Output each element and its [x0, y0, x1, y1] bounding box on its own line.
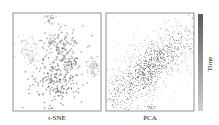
- pca-point: [155, 89, 156, 90]
- pca-point: [112, 104, 113, 105]
- tsne-point: [72, 51, 73, 52]
- pca-point: [153, 67, 154, 68]
- tsne-point: [36, 44, 37, 45]
- tsne-point: [65, 79, 66, 80]
- pca-point: [137, 73, 138, 74]
- pca-point: [111, 79, 112, 80]
- pca-point: [138, 83, 139, 84]
- tsne-point: [58, 35, 59, 36]
- tsne-point: [91, 57, 92, 58]
- pca-point: [109, 100, 110, 101]
- tsne-point: [37, 85, 38, 86]
- tsne-point: [57, 65, 58, 66]
- pca-point: [149, 55, 150, 56]
- pca-point: [156, 85, 157, 86]
- tsne-point: [49, 69, 50, 70]
- pca-point: [154, 59, 155, 60]
- tsne-point: [30, 56, 31, 57]
- tsne-point: [29, 93, 30, 94]
- pca-point: [110, 98, 111, 99]
- pca-point: [139, 69, 140, 70]
- tsne-point: [30, 59, 31, 60]
- pca-point: [161, 58, 162, 59]
- pca-point: [93, 83, 94, 84]
- pca-point: [157, 57, 158, 58]
- pca-point: [159, 68, 160, 69]
- pca-point: [124, 88, 125, 89]
- pca-point: [164, 59, 165, 60]
- pca-point: [160, 54, 161, 55]
- tsne-point: [53, 40, 54, 41]
- pca-point: [163, 57, 164, 58]
- pca-point: [137, 97, 138, 98]
- pca-point: [172, 36, 173, 37]
- tsne-panel-frame: [13, 13, 101, 111]
- tsne-point: [67, 34, 68, 35]
- pca-point: [157, 75, 158, 76]
- pca-point: [134, 67, 135, 68]
- pca-point: [159, 71, 160, 72]
- pca-point: [119, 88, 120, 89]
- tsne-point: [66, 64, 67, 65]
- pca-point: [121, 92, 122, 93]
- tsne-point: [54, 77, 55, 78]
- tsne-point: [58, 49, 59, 50]
- pca-point: [144, 69, 145, 70]
- pca-point: [178, 68, 179, 69]
- pca-point: [192, 46, 193, 47]
- pca-point: [139, 89, 140, 90]
- pca-point: [155, 72, 156, 73]
- pca-point: [160, 78, 161, 79]
- pca-point: [188, 35, 189, 36]
- pca-point: [145, 84, 146, 85]
- pca-point: [143, 72, 144, 73]
- pca-point: [116, 89, 117, 90]
- pca-point: [153, 43, 154, 44]
- pca-point: [152, 71, 153, 72]
- pca-point: [188, 57, 189, 58]
- tsne-point: [46, 50, 47, 51]
- pca-point: [168, 78, 169, 79]
- tsne-point: [28, 37, 29, 38]
- tsne-point: [54, 45, 55, 46]
- pca-point: [129, 89, 130, 90]
- pca-point: [136, 65, 137, 66]
- pca-point: [187, 43, 188, 44]
- pca-point: [158, 87, 159, 88]
- tsne-point: [50, 38, 51, 39]
- pca-point: [154, 63, 155, 64]
- pca-point: [140, 74, 141, 75]
- tsne-point: [72, 68, 73, 69]
- pca-point: [141, 58, 142, 59]
- pca-point: [106, 113, 107, 114]
- pca-point: [160, 72, 161, 73]
- tsne-point: [55, 34, 56, 35]
- pca-point: [170, 37, 171, 38]
- pca-point: [142, 72, 143, 73]
- tsne-point: [47, 16, 48, 17]
- pca-point: [135, 70, 136, 71]
- tsne-point: [69, 65, 70, 66]
- tsne-point: [49, 44, 50, 45]
- pca-point: [128, 76, 129, 77]
- pca-point: [163, 49, 164, 50]
- pca-point: [168, 51, 169, 52]
- pca-point: [143, 79, 144, 80]
- pca-point: [165, 52, 166, 53]
- tsne-point: [44, 108, 45, 109]
- tsne-point: [63, 93, 64, 94]
- pca-point: [151, 79, 152, 80]
- tsne-point: [27, 79, 28, 80]
- pca-point: [117, 87, 118, 88]
- tsne-point: [46, 89, 47, 90]
- pca-point: [148, 83, 149, 84]
- pca-point: [143, 63, 144, 64]
- pca-point: [123, 73, 124, 74]
- tsne-point: [39, 40, 40, 41]
- tsne-point: [62, 85, 63, 86]
- tsne-point: [22, 107, 23, 108]
- tsne-point: [44, 43, 45, 44]
- pca-point: [160, 51, 161, 52]
- pca-point: [142, 88, 143, 89]
- pca-point: [154, 65, 155, 66]
